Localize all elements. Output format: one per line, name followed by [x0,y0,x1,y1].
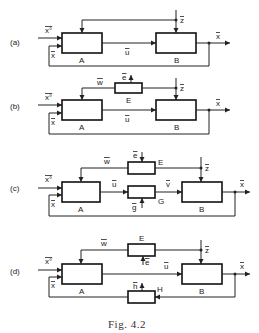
signal-estimate: w [103,157,110,166]
block-a [62,33,102,53]
block-b [182,264,222,284]
block-label: B [174,56,179,65]
block-label: H [157,285,163,294]
signal-disturbance: z [205,246,209,255]
panel-d: (d) x° A E e z w u B x H h x [10,234,250,303]
signal-actuated: v [166,180,170,189]
signal-feedback: x [51,51,55,60]
block-diagram-figure: (a) x° A u B z x x (b) x° A E [0,0,259,333]
signal-disturbance: z [180,16,184,25]
signal-output: x [240,262,244,271]
signal-e: e [133,151,138,160]
block-label: A [78,205,84,214]
signal-output: x [216,99,220,108]
block-b [156,33,196,53]
block-label: E [158,158,163,167]
signal-input: x° [45,93,52,102]
panel-label: (b) [10,102,20,111]
signal-control: u [112,180,116,189]
block-a [62,182,100,202]
block-label: B [199,287,204,296]
block-b [156,100,196,120]
block-e [128,162,155,174]
signal-feedback: x [51,281,55,290]
figure-caption: Fig. 4.2 [108,318,146,330]
signal-input: x° [45,26,52,35]
block-label: E [126,96,131,105]
block-label: G [158,197,164,206]
signal-e: e [145,258,150,267]
signal-output: x [216,32,220,41]
block-label: A [79,123,85,132]
block-label: B [199,205,204,214]
signal-feedback: x [51,118,55,127]
panel-label: (a) [10,38,20,47]
signal-g: g [132,203,136,212]
signal-e: e [122,73,127,82]
signal-disturbance: z [180,84,184,93]
block-label: A [79,287,85,296]
signal-input: x° [45,175,52,184]
signal-control: u [125,115,129,124]
signal-input: x° [45,257,52,266]
block-h [128,291,155,303]
panel-a: (a) x° A u B z x x [10,10,230,66]
block-a [62,100,102,120]
signal-control: u [125,48,129,57]
panel-label: (c) [10,184,20,193]
panel-c: (c) x° A E e z w u G g v B x x [10,151,250,216]
signal-estimate: w [96,78,103,87]
signal-estimate: w [100,239,107,248]
block-e [128,244,155,256]
block-e [115,83,142,93]
signal-feedback: x [51,200,55,209]
signal-h: h [133,282,137,291]
block-label: E [139,234,144,243]
signal-output: x [240,180,244,189]
signal-disturbance: z [205,164,209,173]
panel-b: (b) x° A E e z w u B x x [10,73,230,134]
block-label: A [79,56,85,65]
block-label: B [174,123,179,132]
signal-control: u [164,262,168,271]
panel-label: (d) [10,267,20,276]
block-b [182,182,222,202]
block-g [128,186,155,198]
block-a [62,264,102,284]
